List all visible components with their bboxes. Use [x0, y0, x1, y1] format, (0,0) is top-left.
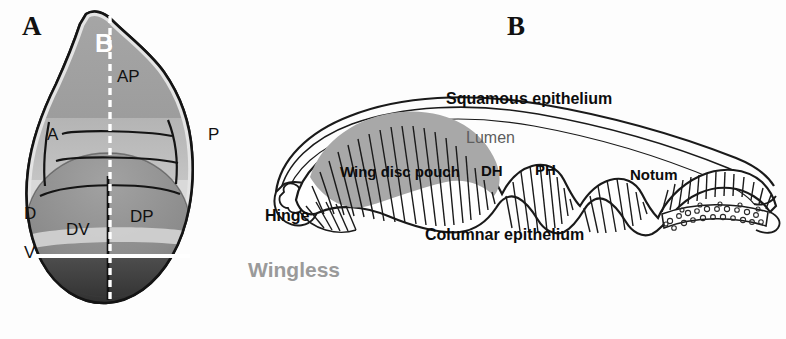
label-wingless: Wingless — [248, 258, 340, 281]
panel-b-letter: B — [507, 11, 525, 42]
label-dorsal: D — [24, 204, 36, 223]
label-ventral: V — [24, 243, 36, 262]
panel-b: B — [250, 0, 786, 339]
label-wing-disc-pouch: Wing disc pouch — [340, 163, 460, 180]
panel-b-diagram: Squamous epithelium Lumen Columnar epith… — [250, 0, 786, 339]
panel-a: A — [0, 0, 250, 339]
label-posterior: P — [208, 125, 219, 144]
label-notum: Notum — [630, 166, 678, 183]
label-columnar-epithelium: Columnar epithelium — [425, 226, 584, 243]
panel-a-diagram: B AP A P D V DV DP — [0, 0, 250, 339]
panel-a-letter: A — [22, 11, 42, 42]
label-hinge: Hinge — [265, 207, 310, 224]
label-dv: DV — [66, 220, 90, 239]
label-anterior: A — [47, 125, 59, 144]
label-proximal-hinge: PH — [535, 161, 556, 178]
label-squamous-epithelium: Squamous epithelium — [446, 90, 612, 107]
label-distal-hinge: DH — [481, 162, 503, 179]
label-section-plane-b: B — [95, 29, 113, 57]
label-dp: DP — [130, 207, 154, 226]
label-ap-axis: AP — [117, 67, 140, 86]
label-lumen: Lumen — [466, 129, 515, 146]
figure-container: A — [0, 0, 786, 339]
